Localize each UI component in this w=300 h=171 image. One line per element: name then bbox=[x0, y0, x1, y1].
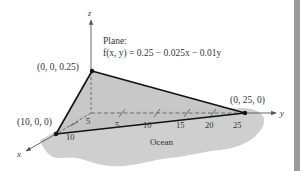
y-tick-5: 5 bbox=[115, 120, 119, 130]
y-tick-10: 10 bbox=[143, 120, 152, 130]
y-axis-label: y bbox=[279, 108, 284, 118]
diagram-canvas: z y x Plane: f(x, y) = 0.25 − 0.025x − 0… bbox=[0, 0, 300, 171]
plane-equation: f(x, y) = 0.25 − 0.025x − 0.01y bbox=[103, 48, 221, 59]
vertex-y-dot bbox=[243, 111, 247, 115]
x-axis-label: x bbox=[16, 149, 21, 159]
vertex-top-dot bbox=[90, 69, 94, 73]
ocean-label: Ocean bbox=[150, 137, 173, 147]
vertex-x-dot bbox=[54, 132, 58, 136]
vertex-y-label: (0, 25, 0) bbox=[230, 95, 265, 106]
y-tick-15: 15 bbox=[176, 120, 185, 130]
x-tick-5: 5 bbox=[86, 116, 90, 126]
vertex-x-label: (10, 0, 0) bbox=[17, 117, 52, 128]
plane-diagram: z y x Plane: f(x, y) = 0.25 − 0.025x − 0… bbox=[0, 0, 300, 171]
z-axis-label: z bbox=[87, 9, 92, 18]
y-tick-25: 25 bbox=[233, 120, 242, 130]
x-tick-10: 10 bbox=[66, 132, 75, 142]
page-edge-bar bbox=[294, 0, 300, 171]
plane-title: Plane: bbox=[103, 36, 127, 46]
vertex-top-label: (0, 0, 0.25) bbox=[37, 62, 79, 73]
y-tick-20: 20 bbox=[205, 120, 214, 130]
